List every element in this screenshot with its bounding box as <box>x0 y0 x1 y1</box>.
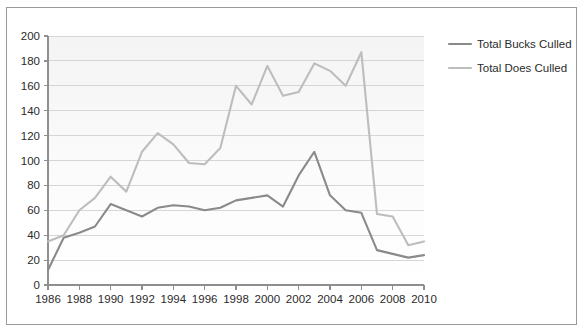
x-tick-label: 1988 <box>67 293 93 305</box>
y-tick-label: 180 <box>21 55 40 67</box>
x-tick-label: 1986 <box>35 293 61 305</box>
x-tick-label: 2010 <box>411 293 437 305</box>
chart-figure: 020406080100120140160180200 198619881990… <box>0 0 584 333</box>
x-axis-ticks <box>48 285 424 290</box>
y-tick-label: 120 <box>21 130 40 142</box>
legend-label: Total Bucks Culled <box>477 38 572 50</box>
x-tick-label: 1994 <box>161 293 187 305</box>
y-tick-label: 0 <box>34 279 40 291</box>
y-tick-label: 160 <box>21 80 40 92</box>
x-axis-tick-labels: 1986198819901992199419961998200020022004… <box>35 293 437 305</box>
x-tick-label: 1996 <box>192 293 218 305</box>
legend-label: Total Does Culled <box>477 62 567 74</box>
y-tick-label: 40 <box>27 229 40 241</box>
y-tick-label: 140 <box>21 105 40 117</box>
x-tick-label: 2002 <box>286 293 312 305</box>
line-chart: 020406080100120140160180200 198619881990… <box>0 0 584 333</box>
y-tick-label: 60 <box>27 204 40 216</box>
chart-legend: Total Bucks CulledTotal Does Culled <box>449 38 572 74</box>
x-tick-label: 1990 <box>98 293 124 305</box>
y-tick-label: 100 <box>21 155 40 167</box>
y-tick-label: 200 <box>21 30 40 42</box>
x-tick-label: 2006 <box>349 293 375 305</box>
x-tick-label: 1992 <box>129 293 155 305</box>
x-tick-label: 2008 <box>380 293 406 305</box>
x-tick-label: 1998 <box>223 293 249 305</box>
x-tick-label: 2004 <box>317 293 343 305</box>
y-axis-tick-labels: 020406080100120140160180200 <box>21 30 40 291</box>
y-tick-label: 80 <box>27 179 40 191</box>
x-tick-label: 2000 <box>255 293 281 305</box>
y-tick-label: 20 <box>27 254 40 266</box>
